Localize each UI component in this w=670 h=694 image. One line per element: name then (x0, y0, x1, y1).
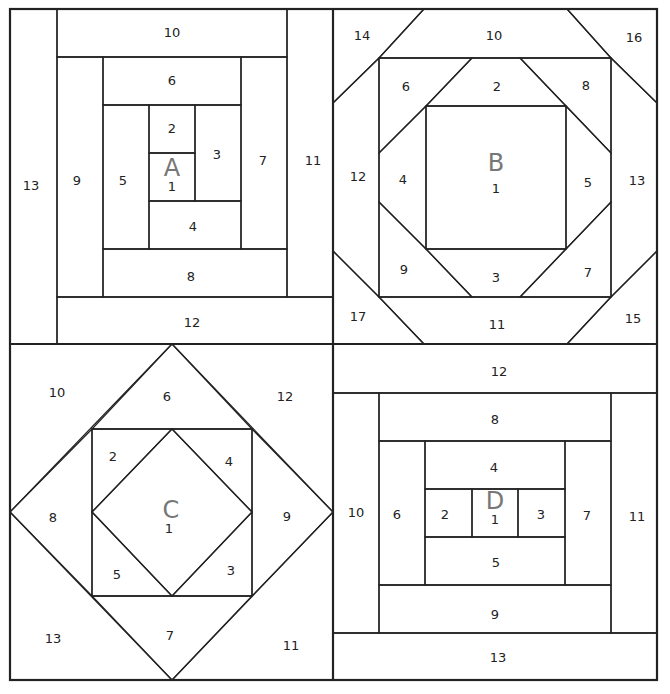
piece-shape (426, 106, 566, 249)
piece-number: 11 (305, 153, 322, 168)
piece-13: 13 (10, 9, 57, 344)
piece-number: 3 (227, 563, 235, 578)
piece-2: 2 (425, 489, 472, 537)
piece-5: 5 (566, 106, 611, 249)
piece-12: 12 (333, 344, 657, 393)
piece-number: 6 (393, 507, 401, 522)
block-a: 13101112967852341A (10, 9, 333, 344)
piece-5: 5 (425, 537, 565, 585)
piece-number: 12 (277, 389, 294, 404)
piece-number: 7 (583, 508, 591, 523)
piece-6: 6 (92, 344, 252, 429)
piece-number: 13 (629, 173, 646, 188)
piece-number: 13 (490, 650, 507, 665)
piece-6: 6 (103, 57, 241, 105)
piece-number: 10 (348, 505, 365, 520)
piece-number: 12 (350, 169, 367, 184)
piece-number: 7 (259, 153, 267, 168)
piece-6: 6 (379, 441, 425, 585)
piece-12: 12 (57, 297, 333, 344)
piece-number: 11 (283, 638, 300, 653)
piece-number: 1 (492, 181, 500, 196)
piece-7: 7 (241, 57, 287, 249)
piece-number: 8 (49, 510, 57, 525)
piece-number: 5 (492, 555, 500, 570)
piece-number: 3 (492, 270, 500, 285)
piece-number: 17 (350, 309, 367, 324)
piece-8: 8 (103, 249, 287, 297)
piece-9: 9 (379, 585, 611, 633)
piece-9: 9 (252, 429, 333, 596)
piece-number: 6 (168, 73, 176, 88)
piece-number: 5 (119, 173, 127, 188)
piece-3: 3 (426, 249, 566, 297)
piece-3: 3 (518, 489, 565, 537)
piece-2: 2 (149, 105, 195, 153)
block-c: 10121311678924531C (10, 344, 333, 680)
block-b: 1416171510111213689723451B (333, 9, 657, 344)
piece-number: 4 (225, 454, 233, 469)
piece-number: 8 (187, 269, 195, 284)
block-letter: B (488, 149, 504, 177)
piece-number: 6 (163, 389, 171, 404)
piece-number: 8 (491, 412, 499, 427)
piece-number: 2 (168, 121, 176, 136)
piece-number: 12 (184, 315, 201, 330)
piece-10: 10 (379, 9, 611, 58)
piece-number: 9 (491, 607, 499, 622)
piece-8: 8 (10, 429, 92, 596)
piece-2: 2 (426, 58, 566, 106)
piece-9: 9 (57, 57, 103, 297)
piece-number: 15 (625, 311, 642, 326)
piece-number: 13 (23, 178, 40, 193)
piece-11: 11 (379, 297, 611, 344)
piece-4: 4 (425, 441, 565, 489)
piece-7: 7 (565, 441, 611, 585)
piece-number: 7 (584, 265, 592, 280)
piece-5: 5 (103, 105, 149, 249)
piece-4: 4 (149, 201, 241, 249)
piece-number: 13 (45, 631, 62, 646)
piece-shape (252, 429, 333, 596)
piece-10: 10 (57, 9, 287, 57)
piece-number: 11 (489, 317, 506, 332)
piece-number: 4 (399, 172, 407, 187)
piece-number: 9 (400, 262, 408, 277)
piece-number: 2 (109, 449, 117, 464)
piece-number: 10 (486, 28, 503, 43)
piece-4: 4 (379, 106, 426, 249)
piece-13: 13 (333, 633, 657, 680)
piece-number: 11 (629, 509, 646, 524)
piece-number: 14 (354, 28, 371, 43)
outer-frame (10, 9, 657, 680)
piece-8: 8 (379, 393, 611, 441)
piece-1: 1 (426, 106, 566, 249)
piece-number: 7 (166, 628, 174, 643)
piece-number: 3 (537, 507, 545, 522)
piece-number: 16 (626, 30, 643, 45)
piece-number: 4 (189, 219, 197, 234)
piece-number: 8 (582, 78, 590, 93)
piece-shape (92, 344, 252, 429)
piece-11: 11 (611, 393, 657, 633)
piece-number: 5 (113, 567, 121, 582)
block-letter: C (163, 496, 180, 524)
block-letter: D (486, 487, 504, 515)
piece-number: 2 (441, 507, 449, 522)
piece-3: 3 (195, 105, 241, 201)
piece-number: 3 (213, 147, 221, 162)
piece-13: 13 (611, 58, 657, 297)
piece-number: 4 (490, 460, 498, 475)
quilt-diagram: 13101112967852341A 141617151011121368972… (0, 0, 670, 694)
piece-number: 12 (491, 364, 508, 379)
piece-7: 7 (92, 596, 252, 680)
piece-12: 12 (333, 58, 379, 297)
block-letter: A (164, 154, 181, 182)
piece-shape (10, 9, 57, 344)
piece-number: 9 (73, 173, 81, 188)
piece-11: 11 (287, 9, 333, 297)
piece-number: 9 (283, 509, 291, 524)
piece-shape (379, 441, 425, 585)
piece-number: 5 (584, 175, 592, 190)
piece-number: 10 (164, 25, 181, 40)
